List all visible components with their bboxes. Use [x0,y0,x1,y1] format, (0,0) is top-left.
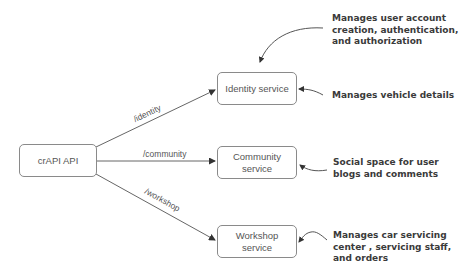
annotation-identity-account: Manages user account creation, authentic… [332,13,458,48]
community-service-label: Community service [233,151,281,175]
edge-identity [96,90,215,147]
annotation-identity-vehicle: Manages vehicle details [332,90,454,102]
edge-label-community: /community [143,149,186,159]
edge-workshop [96,174,215,240]
annotation-workshop: Manages car servicing center , servicing… [333,230,451,265]
annotation-arrow-identity-account [260,28,323,62]
identity-service-label: Identity service [225,83,288,95]
community-service-node: Community service [217,146,297,179]
architecture-diagram: crAPI API Identity service Community ser… [0,0,463,279]
workshop-service-node: Workshop service [217,225,297,258]
annotation-arrow-community [300,165,327,171]
annotation-arrow-identity-vehicle [299,89,323,95]
annotation-community: Social space for user blogs and comments [333,157,439,180]
workshop-service-label: Workshop service [236,230,279,254]
identity-service-node: Identity service [217,72,297,105]
annotation-arrow-workshop [299,232,327,242]
gateway-label: crAPI API [38,155,79,167]
gateway-node: crAPI API [19,144,97,177]
